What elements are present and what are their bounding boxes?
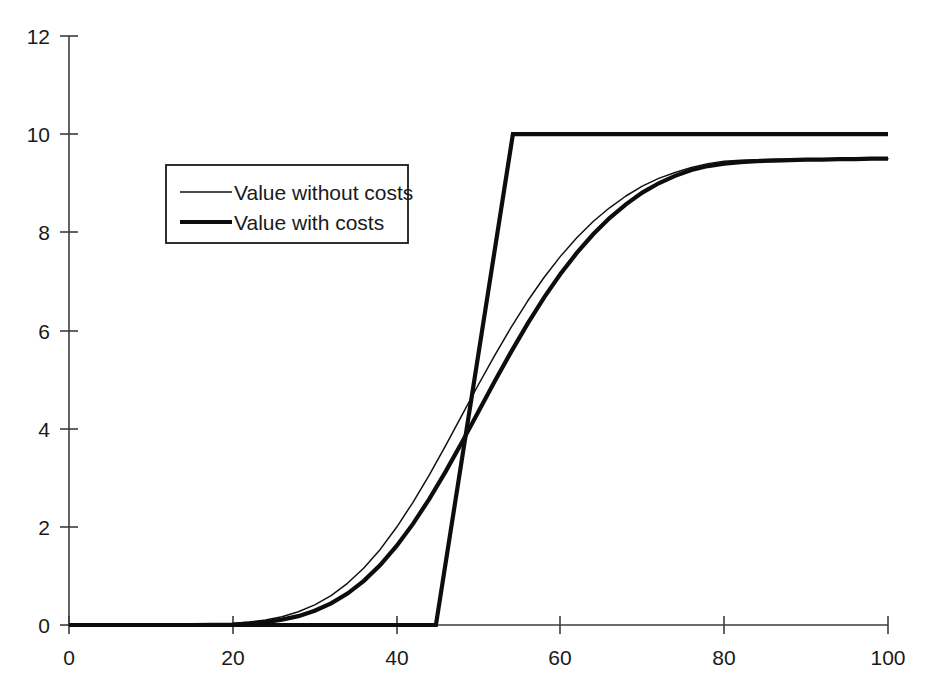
legend: Value without costs Value with costs	[166, 165, 413, 243]
chart-figure: 12 10 8 6 4 2 0 0 20 40 60 80 100	[0, 0, 928, 691]
x-tick-label-40: 40	[385, 646, 408, 669]
y-tick-label-2: 2	[38, 516, 50, 539]
y-tick-label-0: 0	[38, 614, 50, 637]
x-tick-label-100: 100	[870, 646, 905, 669]
y-tick-label-12: 12	[27, 25, 50, 48]
x-tick-label-60: 60	[548, 646, 571, 669]
y-tick-label-6: 6	[38, 320, 50, 343]
line-chart-canvas: 12 10 8 6 4 2 0 0 20 40 60 80 100	[0, 0, 928, 691]
x-tick-label-0: 0	[63, 646, 75, 669]
x-tick-label-20: 20	[221, 646, 244, 669]
x-axis-tick-labels: 0 20 40 60 80 100	[63, 646, 905, 669]
y-axis-tick-labels: 12 10 8 6 4 2 0	[27, 25, 51, 637]
legend-label-value-without-costs: Value without costs	[234, 181, 413, 204]
y-tick-label-4: 4	[38, 418, 50, 441]
y-tick-label-8: 8	[38, 221, 50, 244]
y-tick-label-10: 10	[27, 123, 50, 146]
x-tick-label-80: 80	[712, 646, 735, 669]
legend-label-value-with-costs: Value with costs	[234, 211, 384, 234]
